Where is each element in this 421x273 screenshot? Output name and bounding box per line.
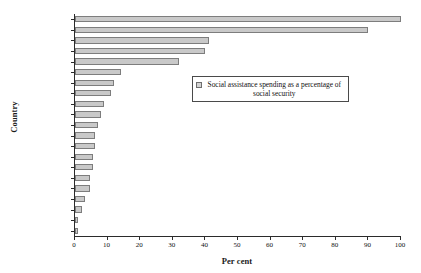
bar	[75, 58, 179, 64]
x-axis-tick-label-30: 30	[157, 241, 187, 249]
x-axis-tick-label-60: 60	[255, 241, 285, 249]
bar	[75, 196, 85, 202]
x-axis-tick	[335, 236, 336, 240]
bar	[75, 37, 209, 43]
bar	[75, 132, 95, 138]
x-axis-tick-label-40: 40	[189, 241, 219, 249]
bar-row	[75, 225, 78, 236]
bar	[75, 16, 401, 22]
x-axis-tick	[204, 236, 205, 240]
bar	[75, 164, 93, 170]
x-axis-tick	[367, 236, 368, 240]
bar	[75, 27, 368, 33]
x-axis-tick	[172, 236, 173, 240]
bar	[75, 90, 111, 96]
x-axis-tick-label-100: 100	[385, 241, 415, 249]
bar	[75, 154, 93, 160]
x-axis-tick	[74, 236, 75, 240]
x-axis-tick	[302, 236, 303, 240]
bar	[75, 122, 98, 128]
x-axis-tick-label-0: 0	[59, 241, 89, 249]
x-axis-tick-label-10: 10	[92, 241, 122, 249]
x-axis-tick-label-80: 80	[320, 241, 350, 249]
x-axis-title: Per cent	[74, 256, 400, 266]
bar	[75, 143, 95, 149]
x-axis-tick	[237, 236, 238, 240]
bar	[75, 101, 104, 107]
x-axis-tick	[400, 236, 401, 240]
bar	[75, 217, 78, 223]
plot-area	[74, 14, 400, 236]
legend-swatch-icon	[196, 82, 202, 88]
bar	[75, 206, 82, 212]
bar	[75, 48, 205, 54]
bar	[75, 111, 101, 117]
bar	[75, 185, 90, 191]
chart-legend: Social assistance spending as a percenta…	[192, 76, 349, 102]
x-axis-tick	[139, 236, 140, 240]
bar	[75, 69, 121, 75]
bar	[75, 228, 78, 234]
bar-chart: Country New ZealandAustraliaIrelandUSAUK…	[0, 0, 421, 273]
x-axis-tick-label-50: 50	[222, 241, 252, 249]
legend-label: Social assistance spending as a percenta…	[205, 80, 345, 98]
bar	[75, 80, 114, 86]
bar	[75, 175, 90, 181]
x-axis-tick-label-70: 70	[287, 241, 317, 249]
x-axis-tick	[270, 236, 271, 240]
x-axis-tick-label-90: 90	[352, 241, 382, 249]
x-axis-tick	[107, 236, 108, 240]
x-axis-tick-label-20: 20	[124, 241, 154, 249]
